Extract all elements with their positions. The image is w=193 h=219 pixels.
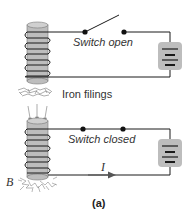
- electromagnet-diagram: [0, 0, 193, 219]
- iron-filings-icon: [18, 88, 52, 96]
- battery-icon-top: [158, 42, 182, 70]
- switch-contact-left-bottom: [80, 126, 85, 131]
- switch-contact-left-top: [82, 29, 87, 34]
- iron-filings-label: Iron filings: [62, 88, 112, 100]
- current-label: I: [101, 160, 105, 175]
- iron-core-top: [27, 22, 48, 84]
- switch-closed-label: Switch closed: [68, 133, 135, 145]
- switch-contact-right-top: [121, 29, 126, 34]
- top-circuit: [18, 15, 182, 96]
- battery-icon-bottom: [158, 139, 182, 167]
- switch-contact-right-bottom: [120, 126, 125, 131]
- figure-caption: (a): [92, 197, 105, 209]
- iron-core-bottom: [27, 118, 48, 180]
- bottom-circuit: [18, 104, 182, 192]
- switch-open-label: Switch open: [73, 36, 133, 48]
- magnetic-field-label: B: [6, 175, 13, 190]
